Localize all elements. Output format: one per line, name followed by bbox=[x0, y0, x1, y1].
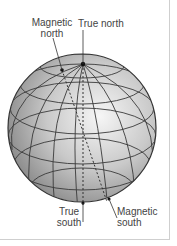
label-magnetic-north: Magnetic north bbox=[28, 17, 76, 39]
label-true-south: True south bbox=[54, 206, 84, 228]
label-magnetic-south: Magnetic south bbox=[117, 206, 165, 228]
label-true-north: True north bbox=[78, 18, 128, 29]
